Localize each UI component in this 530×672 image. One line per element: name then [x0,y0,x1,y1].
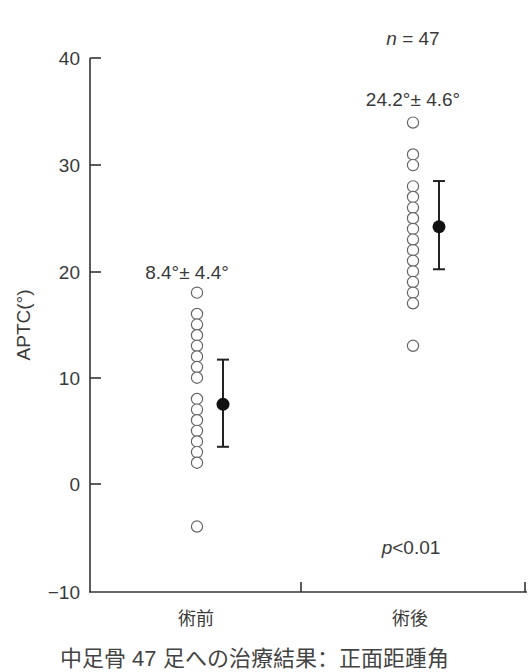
y-tick-40: 40 [59,48,80,69]
dot-plot-chart: 40 30 20 10 0 −10 APTC(°) 8.4°± 4.4° 24.… [0,0,530,640]
category-pre-op: 術前 [178,609,214,629]
post-op-mean-label: 24.2°± 4.6° [366,89,460,110]
data-point [407,202,418,213]
y-tick-10: 10 [59,368,80,389]
data-point [407,160,418,171]
data-point [191,287,202,298]
mean-marker [433,220,446,233]
data-point [407,223,418,234]
data-point [191,457,202,468]
data-point [407,213,418,224]
data-point [407,298,418,309]
y-tick-0: 0 [69,474,80,495]
data-point [191,404,202,415]
y-tick-minus10: −10 [48,582,80,603]
data-point [191,393,202,404]
data-point [407,287,418,298]
data-point [191,361,202,372]
data-point [191,425,202,436]
data-point [191,521,202,532]
data-point [191,372,202,383]
x-axis [89,582,527,592]
data-point [407,276,418,287]
y-tick-30: 30 [59,155,80,176]
sample-size-label: n = 47 [386,28,439,49]
figure-caption: 中足骨 47 足への治療結果：正面距踵角 [60,640,449,672]
data-point [191,447,202,458]
data-point [407,191,418,202]
data-point [191,340,202,351]
data-point [407,149,418,160]
y-tick-labels: 40 30 20 10 0 −10 [48,48,80,603]
data-point [191,436,202,447]
data-point [191,351,202,362]
data-point [191,415,202,426]
pre-op-mean-label: 8.4°± 4.4° [145,262,229,283]
category-post-op: 術後 [392,609,428,629]
data-point [191,330,202,341]
data-point [407,117,418,128]
y-tick-20: 20 [59,262,80,283]
data-point [407,266,418,277]
p-value-label: p<0.01 [381,537,441,558]
data-point [407,340,418,351]
y-axis-label: APTC(°) [13,290,34,361]
data-point [407,234,418,245]
data-point [407,245,418,256]
data-point [407,255,418,266]
data-point [191,308,202,319]
data-point [191,319,202,330]
data-points [191,117,445,532]
data-point [407,181,418,192]
mean-marker [217,398,230,411]
y-axis [90,58,101,592]
